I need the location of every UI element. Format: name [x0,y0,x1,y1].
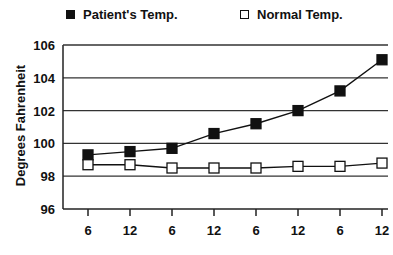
series-line-patient [88,60,382,155]
filled-square-marker [335,86,345,96]
x-tick-label: 6 [252,223,259,238]
open-square-marker [209,163,219,173]
y-tick-label: 106 [33,38,55,53]
open-square-marker [167,163,177,173]
x-tick-label: 6 [168,223,175,238]
filled-square-marker [125,147,135,157]
x-tick-label: 12 [207,223,221,238]
filled-square-marker [83,150,93,160]
line-chart: 9698100102104106612612612612 [0,0,393,255]
open-square-marker [293,161,303,171]
x-tick-label: 6 [336,223,343,238]
open-square-marker [335,161,345,171]
y-tick-label: 98 [41,169,55,184]
y-tick-label: 104 [33,71,55,86]
x-tick-label: 12 [375,223,389,238]
y-tick-label: 96 [41,202,55,217]
open-square-marker [251,163,261,173]
filled-square-marker [209,129,219,139]
filled-square-marker [251,119,261,129]
y-tick-label: 100 [33,136,55,151]
x-tick-label: 6 [84,223,91,238]
filled-square-marker [293,106,303,116]
open-square-marker [83,160,93,170]
open-square-marker [377,158,387,168]
filled-square-marker [167,143,177,153]
open-square-marker [125,160,135,170]
x-tick-label: 12 [123,223,137,238]
y-tick-label: 102 [33,104,55,119]
x-tick-label: 12 [291,223,305,238]
filled-square-marker [377,55,387,65]
